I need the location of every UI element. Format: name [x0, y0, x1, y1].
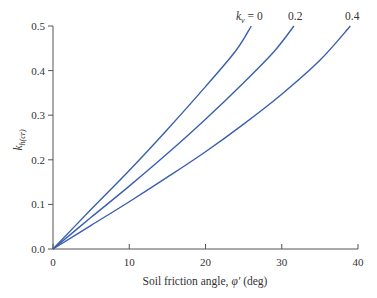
x-tick-label: 30	[276, 256, 288, 268]
x-ticks: 010203040	[50, 244, 364, 268]
curve-kv04	[53, 26, 350, 249]
curve-label-kv04: 0.4	[345, 10, 360, 22]
chart: 0.00.10.20.30.40.5 010203040 kv = 0 0.2 …	[0, 0, 377, 298]
y-tick-label: 0.5	[31, 20, 45, 32]
y-tick-label: 0.3	[31, 109, 45, 121]
y-tick-label: 0.2	[31, 154, 45, 166]
curve-kv0	[53, 26, 251, 249]
curve-label-kv02: 0.2	[288, 10, 303, 22]
x-axis-title: Soil friction angle, φ′ (deg)	[143, 275, 268, 288]
curve-kv02	[53, 26, 294, 249]
x-tick-label: 0	[50, 256, 56, 268]
curve-label-kv0: kv = 0	[236, 10, 263, 25]
x-tick-label: 10	[124, 256, 136, 268]
y-tick-label: 0.0	[31, 243, 45, 255]
y-tick-label: 0.1	[31, 198, 45, 210]
y-tick-label: 0.4	[31, 65, 45, 77]
x-tick-label: 40	[353, 256, 365, 268]
y-ticks: 0.00.10.20.30.40.5	[31, 20, 53, 255]
x-tick-label: 20	[200, 256, 212, 268]
curves	[53, 26, 350, 249]
y-axis-title: kh(cr)	[12, 129, 27, 150]
axes	[53, 26, 358, 249]
